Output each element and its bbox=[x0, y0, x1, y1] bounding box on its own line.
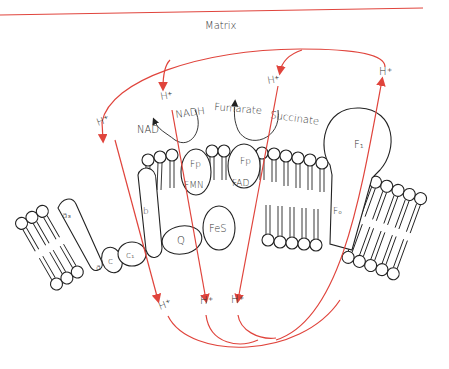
svg-text:Fp: Fp bbox=[240, 156, 251, 166]
nad-label: NAD bbox=[137, 124, 159, 135]
cytochrome-b: b bbox=[138, 168, 162, 257]
h-plus-label: H⁺ bbox=[95, 113, 111, 128]
matrix-boundary-line bbox=[0, 8, 423, 15]
svg-text:c: c bbox=[108, 256, 113, 266]
nadh-label: NADH bbox=[175, 105, 206, 120]
h-plus-label: H⁺ bbox=[157, 297, 173, 312]
svg-text:F₀: F₀ bbox=[333, 206, 342, 216]
h-plus-label: H⁺ bbox=[200, 295, 213, 306]
fes-cluster: FeS bbox=[203, 206, 235, 250]
h-plus-label: H⁺ bbox=[231, 294, 244, 305]
svg-text:FMN: FMN bbox=[184, 180, 204, 190]
h-plus-label: H⁺ bbox=[379, 66, 392, 77]
svg-text:F₁: F₁ bbox=[354, 139, 364, 150]
electron-transport-chain-diagram: Matrix a₃ a c bbox=[0, 0, 449, 369]
svg-text:a₃: a₃ bbox=[62, 210, 72, 220]
svg-text:Q: Q bbox=[177, 235, 185, 246]
cytochrome-a3: a₃ bbox=[58, 199, 102, 270]
svg-text:Fp: Fp bbox=[190, 159, 201, 169]
cytochrome-c1: c₁ bbox=[118, 242, 146, 266]
svg-text:a: a bbox=[96, 263, 101, 272]
svg-text:FeS: FeS bbox=[209, 223, 227, 234]
svg-text:FAD: FAD bbox=[232, 178, 250, 188]
svg-text:b: b bbox=[143, 206, 149, 216]
svg-text:c₁: c₁ bbox=[126, 250, 135, 260]
fumarate-label: Fumarate bbox=[214, 101, 263, 116]
h-plus-label: H⁺ bbox=[266, 73, 280, 86]
cytochrome-a: a bbox=[96, 263, 101, 272]
h-plus-label: H⁺ bbox=[159, 89, 173, 102]
fp-fad-complex: Fp FAD bbox=[228, 144, 260, 188]
matrix-label: Matrix bbox=[205, 20, 237, 31]
